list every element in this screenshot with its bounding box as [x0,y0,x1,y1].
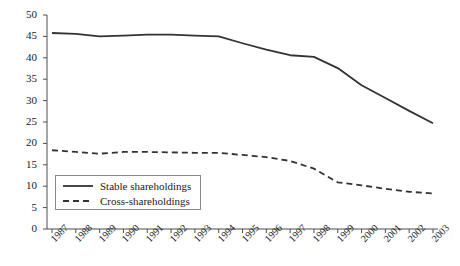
legend-item-stable-shareholdings: Stable shareholdings [62,179,191,193]
legend-dashed-line-icon [62,196,94,206]
chart-legend: Stable shareholdings Cross-shareholdings [55,175,201,210]
legend-item-cross-shareholdings: Cross-shareholdings [62,194,190,208]
series-line-stable-shareholdings [52,33,433,123]
y-axis-tick-label: 10 [15,180,37,191]
legend-label-stable-shareholdings: Stable shareholdings [100,181,191,192]
legend-label-cross-shareholdings: Cross-shareholdings [100,196,190,207]
y-axis-tick-label: 0 [15,223,37,234]
y-axis-tick-label: 35 [15,73,37,84]
y-axis-tick-label: 30 [15,95,37,106]
y-axis-tick-label: 25 [15,116,37,127]
y-axis-tick-label: 15 [15,159,37,170]
y-axis-tick-label: 20 [15,137,37,148]
legend-solid-line-icon [62,181,94,191]
data-series [52,33,433,194]
line-chart: 05101520253035404550 1987198819891990199… [0,0,460,266]
y-axis-tick-label: 40 [15,52,37,63]
y-axis-tick-label: 45 [15,30,37,41]
y-axis-tick-label: 50 [15,9,37,20]
y-axis-tick-label: 5 [15,202,37,213]
